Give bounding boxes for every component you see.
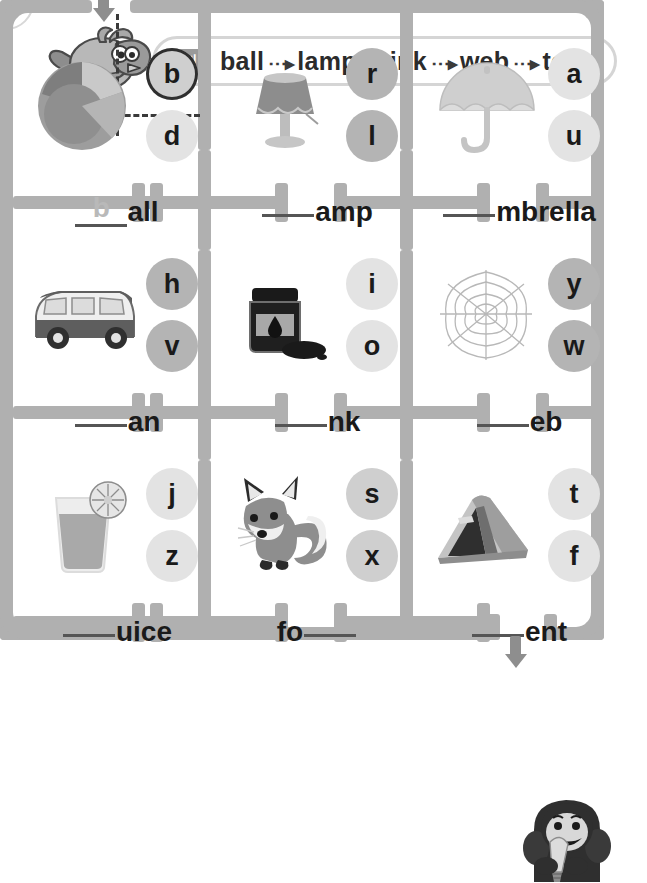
tent-picture [428, 472, 546, 580]
choices-ball[interactable]: bd [146, 48, 204, 172]
cell-juice[interactable]: jz uice [22, 466, 212, 662]
choice-ink-o[interactable]: o [346, 320, 398, 372]
word-suffix: uice [116, 616, 172, 647]
choices-juice[interactable]: jz [146, 468, 204, 592]
cell-van[interactable]: hv an [22, 256, 212, 452]
choices-lamp[interactable]: rl [346, 48, 404, 172]
word-suffix: amp [315, 196, 373, 227]
word-web: eb [424, 406, 614, 438]
table-lamp-picture [226, 52, 344, 160]
cell-tent[interactable]: tf ent [424, 466, 614, 662]
word-suffix: an [128, 406, 161, 437]
juice-glass-picture [26, 472, 144, 580]
word-van: an [22, 406, 212, 438]
choice-tent-f[interactable]: f [548, 530, 600, 582]
gorilla-mascot [492, 786, 642, 883]
word-ball: ball [22, 192, 212, 228]
choices-ink[interactable]: io [346, 258, 404, 382]
word-suffix: nk [328, 406, 361, 437]
fox-picture [226, 472, 344, 580]
cell-lamp[interactable]: rl amp [222, 46, 412, 242]
choice-ink-i[interactable]: i [346, 258, 398, 310]
choice-lamp-r[interactable]: r [346, 48, 398, 100]
choice-web-w[interactable]: w [548, 320, 600, 372]
word-juice: uice [22, 616, 212, 648]
choice-fox-s[interactable]: s [346, 468, 398, 520]
spider-web-picture [428, 262, 546, 370]
maze-wall-left [0, 0, 13, 640]
word-blank[interactable] [63, 634, 115, 637]
choice-web-y[interactable]: y [548, 258, 600, 310]
choices-fox[interactable]: sx [346, 468, 404, 592]
word-ink: nk [222, 406, 412, 438]
choice-tent-t[interactable]: t [548, 468, 600, 520]
word-blank[interactable] [304, 634, 356, 637]
word-suffix: all [127, 196, 158, 227]
choice-ball-d[interactable]: d [146, 110, 198, 162]
word-suffix: mbrella [496, 196, 596, 227]
choice-juice-j[interactable]: j [146, 468, 198, 520]
choice-umbrella-u[interactable]: u [548, 110, 600, 162]
cell-ink[interactable]: io nk [222, 256, 412, 452]
word-fox: fo [222, 616, 412, 648]
word-blank[interactable] [443, 214, 495, 217]
word-blank[interactable] [275, 424, 327, 427]
choice-ball-b[interactable]: b [146, 48, 198, 100]
cell-umbrella[interactable]: au mbrella [424, 46, 614, 242]
cell-ball[interactable]: bd ball [22, 46, 212, 242]
cell-web[interactable]: yw eb [424, 256, 614, 452]
word-suffix: eb [530, 406, 563, 437]
word-lamp: amp [222, 196, 412, 228]
word-blank[interactable] [75, 424, 127, 427]
choice-van-h[interactable]: h [146, 258, 198, 310]
choice-lamp-l[interactable]: l [346, 110, 398, 162]
choice-umbrella-a[interactable]: a [548, 48, 600, 100]
choices-tent[interactable]: tf [548, 468, 606, 592]
choice-juice-z[interactable]: z [146, 530, 198, 582]
choices-van[interactable]: hv [146, 258, 204, 382]
choices-web[interactable]: yw [548, 258, 606, 382]
umbrella-picture [428, 52, 546, 160]
word-blank[interactable] [477, 424, 529, 427]
van-picture [26, 262, 144, 370]
choices-umbrella[interactable]: au [548, 48, 606, 172]
cell-fox[interactable]: sx fo [222, 466, 412, 662]
choice-van-v[interactable]: v [146, 320, 198, 372]
word-filled-letter[interactable]: b [75, 192, 127, 227]
word-suffix: ent [525, 616, 567, 647]
word-prefix: fo [277, 616, 303, 647]
choice-fox-x[interactable]: x [346, 530, 398, 582]
beach-ball-picture [26, 52, 144, 160]
ink-bottle-picture [226, 262, 344, 370]
word-blank[interactable] [262, 214, 314, 217]
word-umbrella: mbrella [424, 196, 614, 228]
